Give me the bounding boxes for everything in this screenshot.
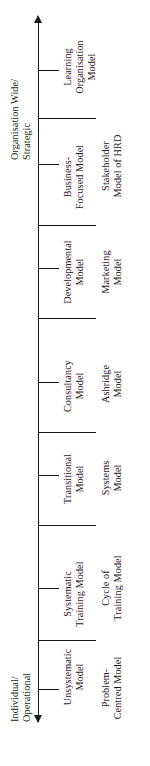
inner-label-1-line1: Learning <box>62 22 74 112</box>
outer-label-1-line2: Model of HRD <box>112 120 124 212</box>
inner-label-5-line2: Model <box>74 434 86 524</box>
inner-label-unsystematic-model: Unsystematic Model <box>62 632 86 722</box>
axis-bottom-endpoint-label: Individual/ Operational <box>9 673 33 722</box>
inner-label-3-line1: Developmental <box>62 226 74 318</box>
inner-label-6-line2: Training Model <box>74 548 86 640</box>
outer-label-stakeholder-model-of-hrd: Stakeholder Model of HRD <box>100 120 124 212</box>
tick-long-5 <box>38 525 96 526</box>
outer-label-ashridge-model: Ashridge Model <box>100 344 124 424</box>
inner-label-business-focused-model: Business- Focused Model <box>62 132 86 222</box>
inner-label-7-line1: Unsystematic <box>62 632 74 722</box>
inner-label-2-line1: Business- <box>62 132 74 222</box>
outer-label-1-line1: Stakeholder <box>100 120 112 212</box>
outer-label-problem-centred-model: Problem- Centred Model <box>100 642 124 734</box>
inner-label-6-line1: Systematic <box>62 548 74 640</box>
inner-label-consultancy-model: Consultancy Model <box>62 340 86 432</box>
outer-label-5-line1: Cycle of <box>100 542 112 634</box>
inner-label-learning-organisation-model: Learning Organisation Model <box>62 22 98 112</box>
inner-label-1-line3: Model <box>86 22 98 112</box>
inner-label-5-line1: Transitional <box>62 434 74 524</box>
outer-label-2-line1: Marketing <box>100 232 112 312</box>
tick-short-4 <box>38 382 59 383</box>
outer-label-4-line1: Systems <box>100 438 112 518</box>
outer-label-marketing-model: Marketing Model <box>100 232 124 312</box>
inner-label-transitional-model: Transitional Model <box>62 434 86 524</box>
inner-label-3-line2: Model <box>74 226 86 318</box>
outer-label-6-line2: Centred Model <box>112 642 124 734</box>
tick-short-5 <box>38 475 59 476</box>
tick-short-1 <box>38 70 59 71</box>
inner-label-2-line2: Focused Model <box>74 132 86 222</box>
outer-label-6-line1: Problem- <box>100 642 112 734</box>
inner-label-7-line2: Model <box>74 632 86 722</box>
axis-bottom-endpoint-line2: Operational <box>21 673 33 722</box>
axis-top-endpoint-line1: Organisation Wide/ <box>9 79 21 160</box>
tick-short-2 <box>38 164 59 165</box>
outer-label-5-line2: Training Model <box>112 542 124 634</box>
tick-long-1 <box>38 118 96 119</box>
inner-label-1-line2: Organisation <box>74 22 86 112</box>
inner-label-4-line1: Consultancy <box>62 340 74 432</box>
tick-short-3 <box>38 268 59 269</box>
inner-label-4-line2: Model <box>74 340 86 432</box>
outer-label-3-line1: Ashridge <box>100 344 112 424</box>
tick-long-3 <box>38 318 96 319</box>
tick-short-7 <box>38 689 59 690</box>
inner-label-systematic-training-model: Systematic Training Model <box>62 548 86 640</box>
outer-label-systems-model: Systems Model <box>100 438 124 518</box>
inner-label-developmental-model: Developmental Model <box>62 226 86 318</box>
outer-label-cycle-of-training-model: Cycle of Training Model <box>100 542 124 634</box>
outer-label-2-line2: Model <box>112 232 124 312</box>
axis-top-endpoint-label: Organisation Wide/ Strategic <box>9 79 33 160</box>
hrd-models-continuum-diagram: Organisation Wide/ Strategic Individual/… <box>0 0 150 766</box>
outer-label-4-line2: Model <box>112 438 124 518</box>
axis-top-endpoint-line2: Strategic <box>21 79 33 160</box>
tick-short-6 <box>38 588 59 589</box>
outer-label-3-line2: Model <box>112 344 124 424</box>
arrow-head-down-icon <box>34 715 42 723</box>
continuum-axis-line <box>38 22 39 722</box>
axis-bottom-endpoint-line1: Individual/ <box>9 673 21 722</box>
